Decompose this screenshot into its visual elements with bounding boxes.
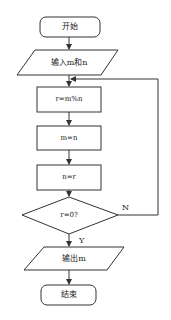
step2-label: m=n [37,135,101,142]
input-label: 输入m和n [27,59,111,67]
end-label: 结束 [41,291,96,299]
flowchart-canvas [0,0,171,320]
decision-label: r=0? [37,212,101,219]
branch-label-no: N [122,204,129,212]
start-label: 开始 [40,23,100,31]
step3-label: n=r [37,174,101,181]
branch-label-yes: Y [79,237,84,245]
output-label: 输出m [34,255,114,263]
step1-label: r=m%n [37,96,101,103]
